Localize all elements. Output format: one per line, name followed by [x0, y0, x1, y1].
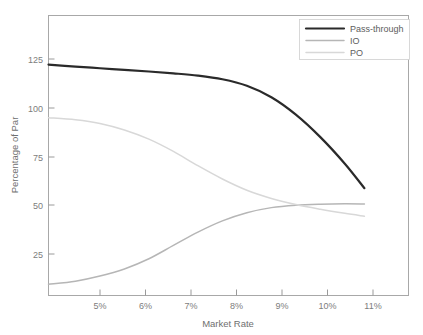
- x-tick-label: 9%: [275, 301, 288, 311]
- x-tick-label: 5%: [93, 301, 106, 311]
- line-chart: 125 100 75 50 25 Percentage of Par 5% 6%…: [0, 0, 423, 335]
- x-axis-title: Market Rate: [202, 318, 254, 329]
- y-tick-label: 25: [33, 250, 43, 260]
- chart-figure: 125 100 75 50 25 Percentage of Par 5% 6%…: [0, 0, 423, 335]
- x-tick-label: 8%: [230, 301, 243, 311]
- chart-legend: Pass-through IO PO: [300, 20, 410, 60]
- y-tick-label: 50: [33, 201, 43, 211]
- legend-label-pass-through: Pass-through: [350, 24, 404, 34]
- x-tick-label: 10%: [318, 301, 336, 311]
- x-tick-label: 7%: [184, 301, 197, 311]
- legend-label-po: PO: [350, 48, 363, 58]
- y-tick-label: 75: [33, 153, 43, 163]
- y-axis-title: Percentage of Par: [9, 117, 20, 194]
- legend-label-io: IO: [350, 36, 360, 46]
- x-tick-label: 6%: [139, 301, 152, 311]
- y-tick-label: 100: [28, 104, 43, 114]
- y-tick-label: 125: [28, 55, 43, 65]
- x-tick-label: 11%: [364, 301, 381, 311]
